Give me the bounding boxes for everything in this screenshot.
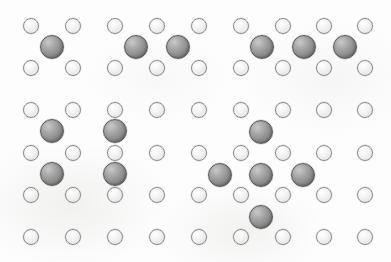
lattice-site — [107, 102, 123, 118]
cluster-atom — [249, 163, 273, 187]
lattice-site — [149, 145, 165, 161]
lattice-site — [149, 187, 165, 203]
cluster-atom — [291, 163, 315, 187]
cluster-atom — [40, 35, 64, 59]
lattice-site — [23, 102, 39, 118]
lattice-site — [191, 102, 207, 118]
cluster-atom — [40, 119, 64, 143]
lattice-site — [357, 229, 373, 245]
cluster-atom — [333, 35, 357, 59]
lattice-site — [23, 229, 39, 245]
lattice-site — [23, 145, 39, 161]
cluster-atom — [40, 162, 64, 186]
cluster-atom — [208, 163, 232, 187]
lattice-site — [23, 18, 39, 34]
lattice-site — [233, 60, 249, 76]
lattice-site — [316, 18, 332, 34]
lattice-site — [275, 60, 291, 76]
cluster-atom — [103, 119, 127, 143]
lattice-site — [357, 187, 373, 203]
lattice-site — [191, 187, 207, 203]
cluster-atom — [249, 120, 273, 144]
cluster-atom — [292, 35, 316, 59]
lattice-site — [357, 18, 373, 34]
lattice-site — [23, 60, 39, 76]
lattice-site — [191, 145, 207, 161]
lattice-site — [233, 102, 249, 118]
cluster-atom — [124, 35, 148, 59]
lattice-site — [191, 18, 207, 34]
lattice-site — [107, 145, 123, 161]
lattice-site — [357, 60, 373, 76]
lattice-site — [23, 187, 39, 203]
lattice-site — [233, 229, 249, 245]
lattice-site — [149, 102, 165, 118]
lattice-site — [275, 145, 291, 161]
lattice-site — [357, 145, 373, 161]
lattice-site — [275, 187, 291, 203]
lattice-site — [65, 18, 81, 34]
cluster-atom — [250, 35, 274, 59]
lattice-site — [107, 18, 123, 34]
lattice-site — [275, 102, 291, 118]
lattice-site — [316, 187, 332, 203]
lattice-site — [316, 102, 332, 118]
lattice-site — [191, 60, 207, 76]
lattice-site — [316, 229, 332, 245]
lattice-site — [357, 102, 373, 118]
cluster-atom — [249, 205, 273, 229]
lattice-site — [65, 60, 81, 76]
lattice-site — [316, 145, 332, 161]
lattice-site — [107, 187, 123, 203]
cluster-atom — [166, 35, 190, 59]
lattice-site — [65, 145, 81, 161]
lattice-site — [149, 18, 165, 34]
lattice-site — [65, 102, 81, 118]
lattice-site — [275, 18, 291, 34]
lattice-site — [233, 187, 249, 203]
lattice-site — [149, 60, 165, 76]
lattice-site — [65, 229, 81, 245]
lattice-site — [316, 60, 332, 76]
lattice-site — [233, 145, 249, 161]
lattice-site — [191, 229, 207, 245]
lattice-site — [107, 229, 123, 245]
lattice-site — [149, 229, 165, 245]
lattice-site — [233, 18, 249, 34]
cluster-atom — [103, 162, 127, 186]
lattice-site — [107, 60, 123, 76]
lattice-figure — [0, 0, 391, 262]
lattice-site — [275, 229, 291, 245]
lattice-site — [65, 187, 81, 203]
